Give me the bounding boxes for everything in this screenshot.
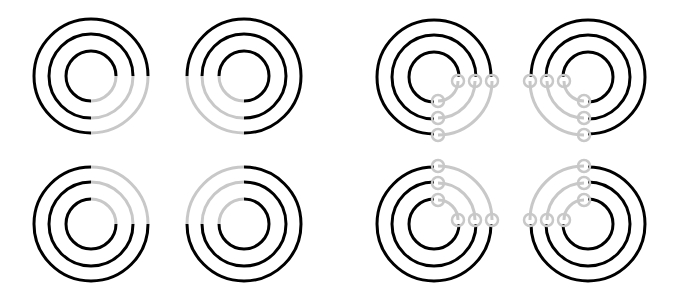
gray-ring-arc [202, 76, 244, 118]
gray-detached-arc [438, 200, 458, 220]
black-ring-arc [377, 20, 491, 134]
gray-ring-arc [91, 182, 133, 224]
gray-ring-arc [187, 76, 244, 133]
ring-figure-fig-1 [34, 19, 148, 133]
gray-ring-arc [91, 76, 133, 118]
gray-ring-arc [91, 199, 116, 224]
ring-figure-fig-2 [187, 19, 301, 133]
gray-ring-arc [219, 199, 244, 224]
ring-figure-fig-4 [187, 167, 301, 281]
black-ring-arc [531, 20, 645, 134]
gray-detached-arc [438, 81, 458, 101]
black-ring-arc [531, 167, 645, 281]
gray-ring-arc [187, 167, 244, 224]
ring-figure-fig-5 [377, 20, 498, 141]
ring-figure-fig-8 [524, 160, 645, 281]
gray-ring-arc [91, 167, 148, 224]
gray-ring-arc [91, 76, 148, 133]
black-ring-arc [377, 167, 491, 281]
gray-ring-arc [219, 76, 244, 101]
ring-figure-fig-6 [524, 20, 645, 141]
ring-figure-fig-3 [34, 167, 148, 281]
concentric-rings-diagram [0, 0, 683, 304]
gray-detached-arc [564, 81, 584, 101]
ring-figure-fig-7 [377, 160, 498, 281]
gray-detached-arc [564, 200, 584, 220]
diagram-canvas [0, 0, 683, 304]
gray-ring-arc [202, 182, 244, 224]
gray-ring-arc [91, 76, 116, 101]
